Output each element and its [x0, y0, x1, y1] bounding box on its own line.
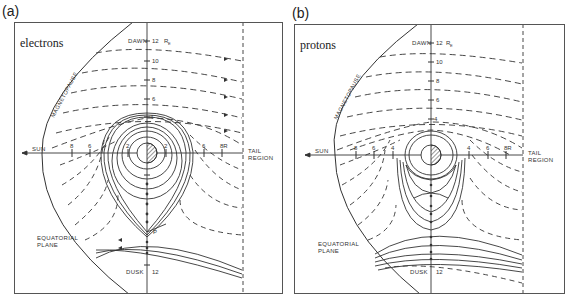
panel-b-tick-8: 8 — [436, 78, 440, 84]
panel-b-dusk-label: DUSK — [410, 269, 428, 275]
panel-a-equatorial-label-1: EQUATORIAL — [37, 235, 78, 241]
panel-a-sun-label: SUN — [32, 146, 46, 152]
diagram-canvas: electrons DAWN 12 R E 10 8 6 4 SUN 8 6 2… — [0, 0, 573, 301]
panel-a-species-label: electrons — [20, 36, 64, 50]
panel-a-stagnation-point-label: P — [153, 229, 157, 235]
panel-b-tail-tick-8: 8R — [504, 145, 512, 151]
panel-a-tick-6: 6 — [152, 96, 156, 102]
outer-dusk-dashed — [385, 266, 522, 283]
panel-b-tick-6: 6 — [436, 97, 440, 103]
panel-a-tail-tick-8: 8R — [220, 143, 228, 149]
panel-a-tail-label-2: REGION — [248, 155, 273, 161]
panel-a-tick-8: 8 — [152, 77, 156, 83]
convection-field-lines-sunward — [60, 135, 118, 240]
panel-b-tick-10: 10 — [436, 59, 443, 65]
panel-b-equatorial-label-1: EQUATORIAL — [318, 241, 359, 247]
panel-a-dawn-label: DAWN — [128, 38, 147, 44]
panel-a-tail-tick-6: 6 — [202, 143, 206, 149]
panel-b-sun-tick-6: 6 — [372, 145, 376, 151]
dusk-open-field-lines — [96, 246, 242, 278]
panel-b-tail-label-2: REGION — [528, 157, 553, 163]
panel-a-dusk-value: 12 — [152, 269, 159, 275]
magnetopause-boundary — [334, 24, 420, 294]
panel-a-tick-10: 10 — [152, 58, 159, 64]
panel-a-electrons — [22, 22, 243, 295]
panel-b-sun-label: SUN — [315, 148, 329, 154]
panel-b-unit-sub: E — [450, 43, 453, 48]
panel-b-sun-tick-4: 4 — [391, 145, 395, 151]
convection-field-lines-dawn — [337, 54, 522, 155]
panel-b-species-label: protons — [300, 38, 336, 52]
panel-a-tail-tick-2: 2 — [164, 143, 168, 149]
sun-arrow-icon — [305, 153, 310, 157]
panel-b-tail-label-1: TAIL — [528, 150, 542, 156]
panel-a-dusk-label: DUSK — [126, 269, 144, 275]
panel-b-equatorial-label-2: PLANE — [318, 248, 339, 254]
panel-a-magnetopause-label: MAGNETOPAUSE — [50, 71, 79, 119]
panel-a-dawn-value: 12 — [152, 38, 159, 44]
panel-a-sun-tick-8: 8 — [70, 143, 74, 149]
panel-b-dawn-value: 12 — [436, 40, 443, 46]
panel-b-tick-4: 4 — [434, 116, 438, 122]
panel-a-equatorial-label-2: PLANE — [37, 242, 58, 248]
panel-a-unit-sub: E — [168, 41, 171, 46]
panel-a-sun-tick-6: 6 — [88, 143, 92, 149]
panel-b-tail-tick-6: 6 — [486, 145, 490, 151]
panel-b-dawn-label: DAWN — [412, 40, 431, 46]
panel-a-tail-label-1: TAIL — [248, 148, 262, 154]
panel-b-sun-tick-8: 8 — [354, 145, 358, 151]
panel-b-dusk-value: 12 — [436, 269, 443, 275]
panel-b-tail-tick-4: 4 — [467, 145, 471, 151]
sun-arrow-icon — [22, 151, 27, 155]
magnetopause-boundary — [42, 22, 133, 295]
